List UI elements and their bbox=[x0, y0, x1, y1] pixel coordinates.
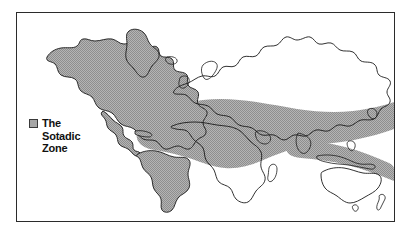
legend-label: The Sotadic Zone bbox=[42, 117, 80, 155]
legend-row: The Sotadic Zone bbox=[29, 117, 95, 155]
legend-label-line-2: Sotadic bbox=[42, 130, 80, 143]
map-legend: The Sotadic Zone bbox=[29, 117, 95, 155]
map-frame: The Sotadic Zone bbox=[16, 12, 395, 222]
sotadic-zone-swatch-icon bbox=[29, 119, 38, 128]
legend-label-line-3: Zone bbox=[42, 142, 80, 155]
map-figure: The Sotadic Zone bbox=[0, 0, 410, 236]
legend-label-line-1: The bbox=[42, 117, 80, 130]
